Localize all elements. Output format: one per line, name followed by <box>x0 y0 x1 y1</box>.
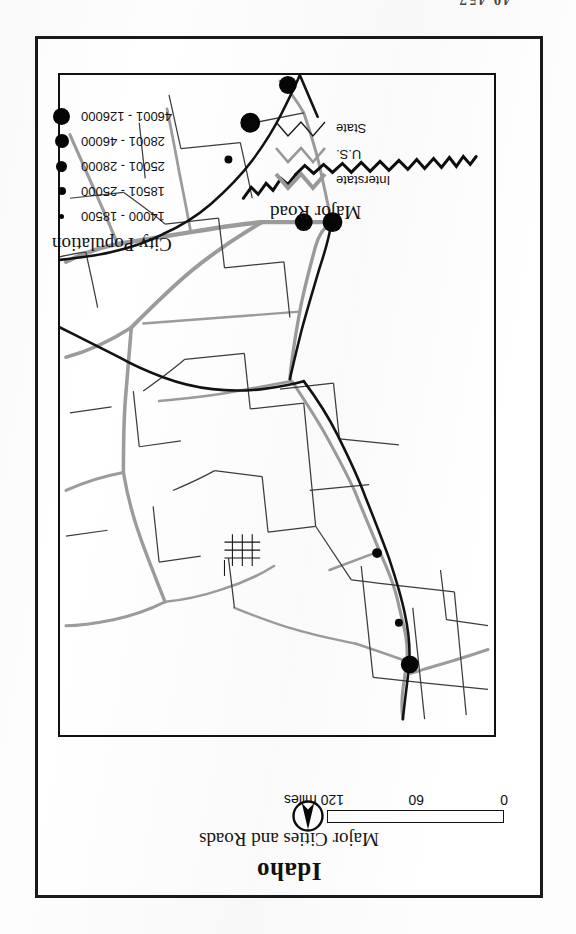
legend-row-us[interactable]: U.S. <box>270 142 450 168</box>
legend-label-us: U.S. <box>336 148 361 163</box>
north-arrow-icon <box>291 799 325 833</box>
legend-major-road: Major Road Interstate U.S. State <box>270 116 450 223</box>
city-dot-pocatello <box>279 76 297 94</box>
city-dot-lewiston <box>372 548 382 558</box>
page-title: Idaho <box>38 857 540 885</box>
city-dot-icon-2 <box>52 188 72 196</box>
legend-row-interstate[interactable]: Interstate <box>270 168 450 194</box>
legend-row-pop-2[interactable]: 18501 - 25000 <box>52 179 266 204</box>
state-road-line-icon <box>270 118 328 140</box>
legend-row-state[interactable]: State <box>270 116 450 142</box>
scale-labels: 0 60 120 miles <box>319 791 504 808</box>
legend-label-pop-1: 14000 - 18500 <box>81 209 165 224</box>
legend-major-road-title: Major Road <box>270 201 450 223</box>
legend-row-pop-4[interactable]: 28001 - 46000 <box>52 129 266 154</box>
page-subtitle: Major Cities and Roads <box>38 828 540 850</box>
scale-bar <box>327 810 504 823</box>
map-plate: Idaho Major Cities and Roads 0 60 120 mi… <box>35 36 543 898</box>
interstate-line-icon <box>270 170 328 192</box>
legend-row-pop-1[interactable]: 14000 - 18500 <box>52 204 266 229</box>
city-dot-coeurdalene <box>401 655 419 673</box>
city-dot-icon-1 <box>52 214 72 219</box>
city-dot-icon-4 <box>52 135 72 149</box>
scale-bar-block: 0 60 120 miles <box>294 791 504 823</box>
city-dot-moscow <box>395 619 403 627</box>
page-canvas: 40 457 Idaho Major Cities and Roads 0 60… <box>0 0 576 934</box>
title-block: Idaho Major Cities and Roads <box>38 828 540 885</box>
legend-label-state: State <box>336 122 366 137</box>
city-dot-icon-3 <box>52 161 72 172</box>
legend-city-population-title: City Population <box>52 233 266 255</box>
city-dot-icon-5 <box>52 108 72 125</box>
scale-label-mid: 60 <box>408 792 424 808</box>
legend-label-pop-2: 18501 - 25000 <box>81 184 165 199</box>
running-header-fragment: 40 457 <box>392 0 576 8</box>
legend-label-pop-3: 25001 - 28000 <box>81 159 165 174</box>
legend-label-interstate: Interstate <box>336 174 390 189</box>
legend-label-pop-5: 46001 - 126000 <box>81 109 172 124</box>
us-highway-line-icon <box>270 144 328 166</box>
legend-row-pop-3[interactable]: 25001 - 28000 <box>52 154 266 179</box>
scale-label-min: 0 <box>500 792 508 808</box>
legend-label-pop-4: 28001 - 46000 <box>81 134 165 149</box>
legend-city-population: City Population 14000 - 18500 18501 - 25… <box>52 104 266 255</box>
legend-row-pop-5[interactable]: 46001 - 126000 <box>52 104 266 129</box>
